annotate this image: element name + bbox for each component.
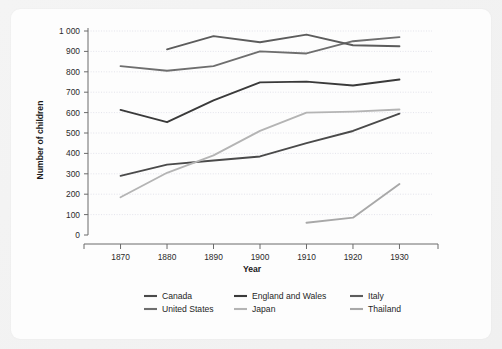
y-tick-label-300: 300 [66,169,80,179]
y-tick-label-500: 500 [66,128,80,138]
x-tick-label-1920: 1920 [344,252,363,262]
series-line-canada [121,114,400,176]
series-line-thailand [306,184,399,223]
y-axis-title: Number of children [35,101,45,180]
y-tick-label-1000: 1 000 [59,26,80,36]
y-tick-label-400: 400 [66,148,80,158]
chart-svg: 01002003004005006007008009001 000 187018… [0,0,502,349]
x-tick-label-1880: 1880 [158,252,177,262]
x-tick-label-1900: 1900 [251,252,270,262]
series-line-england-and-wales [121,80,400,123]
legend-label-united-states: United States [162,304,214,314]
y-tick-label-0: 0 [75,230,80,240]
legend-label-japan: Japan [252,304,276,314]
x-axis-tick-labels: 1870188018901900191019201930 [111,244,409,262]
y-tick-label-200: 200 [66,189,80,199]
legend-label-england-and-wales: England and Wales [252,291,326,301]
x-tick-label-1890: 1890 [204,252,223,262]
x-tick-label-1910: 1910 [297,252,316,262]
chart-page: 01002003004005006007008009001 000 187018… [0,0,502,349]
y-axis-tick-labels: 01002003004005006007008009001 000 [59,26,88,240]
legend: CanadaEngland and WalesItalyUnited State… [144,291,401,314]
axes [84,28,438,249]
y-tick-label-600: 600 [66,108,80,118]
legend-label-thailand: Thailand [368,304,401,314]
y-tick-label-800: 800 [66,67,80,77]
legend-label-canada: Canada [162,291,192,301]
y-tick-label-900: 900 [66,46,80,56]
series-line-italy [167,35,399,50]
line-chart: 01002003004005006007008009001 000 187018… [0,0,502,349]
y-tick-label-700: 700 [66,87,80,97]
x-axis-title: Year [243,264,262,274]
legend-label-italy: Italy [368,291,384,301]
x-tick-label-1930: 1930 [390,252,409,262]
x-tick-label-1870: 1870 [111,252,130,262]
y-tick-label-100: 100 [66,210,80,220]
